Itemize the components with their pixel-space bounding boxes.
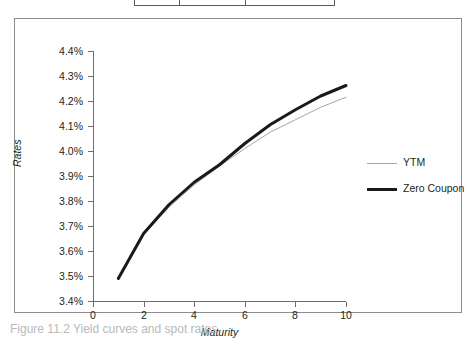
series-line-zero-coupon (118, 86, 346, 279)
table-column-divider (179, 0, 180, 5)
legend-swatch-ytm-icon (367, 163, 397, 164)
legend-swatch-zero-coupon-icon (367, 188, 397, 191)
table-column-divider (245, 0, 246, 5)
legend-label-zero-coupon: Zero Coupon (403, 182, 464, 194)
table-remnant-above-figure (134, 0, 335, 6)
figure-caption: Figure 11.2 Yield curves and spot rates (10, 322, 217, 336)
figure-frame: 3.4%3.5%3.6%3.7%3.8%3.9%4.0%4.1%4.2%4.3%… (14, 18, 462, 313)
legend-entry-zero-coupon: Zero Coupon (367, 180, 467, 206)
chart-legend: YTM Zero Coupon (367, 154, 467, 206)
legend-label-ytm: YTM (403, 156, 425, 168)
legend-entry-ytm: YTM (367, 154, 467, 180)
series-line-ytm (118, 97, 346, 278)
